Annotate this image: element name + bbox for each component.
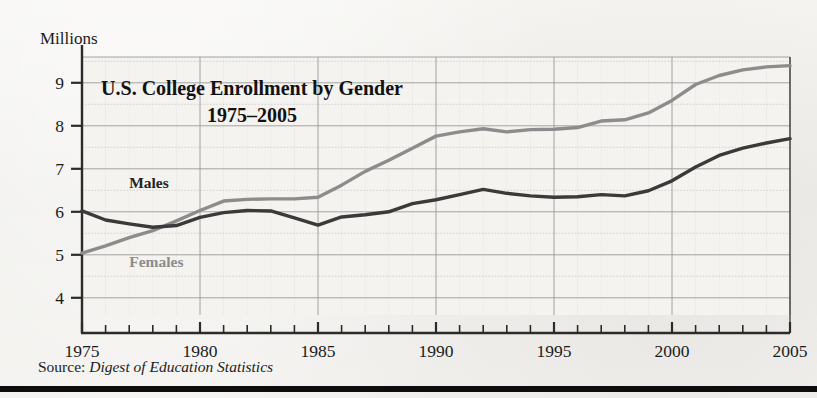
x-axis-tick-label: 2005 — [773, 341, 808, 361]
chart-subtitle: 1975–2005 — [207, 104, 297, 126]
chart-title: U.S. College Enrollment by Gender — [101, 77, 403, 100]
bottom-rule-divider — [0, 386, 817, 392]
y-axis-tick-label: 8 — [55, 116, 64, 136]
chart-figure: 4567891975198019851990199520002005Millio… — [0, 0, 817, 398]
x-axis-tick-label: 1995 — [537, 341, 572, 361]
x-axis-tick-label: 1985 — [301, 341, 336, 361]
y-axis-tick-label: 7 — [55, 159, 64, 179]
x-axis-tick-label: 1990 — [419, 341, 454, 361]
line-chart: 4567891975198019851990199520002005Millio… — [0, 0, 817, 398]
series-label-males: Males — [129, 174, 169, 191]
x-axis-tick-label: 2000 — [655, 341, 690, 361]
y-axis-tick-label: 4 — [55, 288, 64, 308]
source-note: Source: Digest of Education Statistics — [38, 358, 273, 375]
source-prefix: Source: — [38, 358, 89, 375]
series-label-females: Females — [129, 253, 183, 270]
y-axis-tick-label: 9 — [55, 73, 64, 93]
y-axis-tick-label: 6 — [55, 202, 64, 222]
y-axis-tick-label: 5 — [55, 245, 64, 265]
source-publication: Digest of Education Statistics — [88, 358, 273, 375]
y-axis-unit-label: Millions — [40, 29, 98, 48]
